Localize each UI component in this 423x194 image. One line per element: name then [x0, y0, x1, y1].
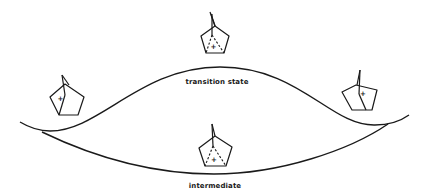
classical-cation-left: + [50, 75, 84, 115]
positive-charge-icon: + [360, 90, 366, 98]
transition-state-curve [20, 67, 409, 131]
classical-cation-right: + [342, 70, 377, 110]
transition-state-label: transition state [186, 78, 249, 86]
energy-diagram: + + + + [0, 0, 423, 194]
nonclassical-cation-bottom: + [199, 124, 232, 166]
intermediate-label: intermediate [189, 182, 241, 190]
nonclassical-cation-top: + [201, 12, 229, 53]
positive-charge-icon: + [211, 156, 217, 164]
positive-charge-icon: + [58, 95, 64, 103]
positive-charge-icon: + [211, 43, 217, 51]
